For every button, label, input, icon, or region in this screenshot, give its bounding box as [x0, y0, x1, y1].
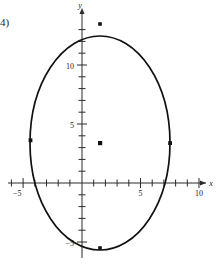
x-axis-label: x [208, 179, 213, 188]
y-axis-label: y [77, 1, 82, 10]
problem-number-label: 4) [0, 16, 9, 28]
point-right-covertex [168, 141, 172, 145]
y-tick-label-neg5: −5 [65, 239, 74, 248]
y-tick-label-5: 5 [70, 121, 74, 130]
x-axis-arrow-icon [200, 181, 206, 186]
point-center [98, 141, 102, 145]
y-axis [80, 8, 85, 258]
x-axis [8, 181, 206, 186]
graph-figure: 4) [0, 0, 222, 265]
y-tick-label-10: 10 [66, 62, 74, 71]
x-tick-label-10: 10 [195, 189, 203, 198]
x-tick-label-5: 5 [139, 189, 143, 198]
point-top-vertex [98, 22, 102, 26]
point-left-covertex [29, 138, 33, 142]
coordinate-plane: −5 5 10 5 10 −5 x y [0, 0, 222, 265]
point-bottom-vertex [98, 246, 102, 250]
x-tick-label-neg5: −5 [13, 189, 22, 198]
